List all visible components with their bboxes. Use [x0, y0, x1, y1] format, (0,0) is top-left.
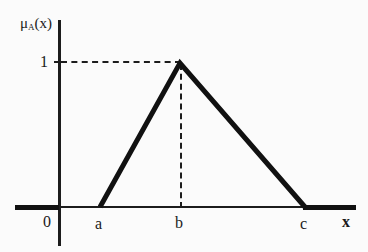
x-axis-label: x	[342, 214, 350, 230]
y-axis-label-arg: (x)	[35, 15, 53, 31]
x-tick-label-c: c	[300, 216, 307, 232]
membership-curve	[0, 0, 368, 252]
origin-label: 0	[43, 214, 51, 230]
triangular-curve-polyline	[100, 63, 305, 207]
x-tick-label-b: b	[175, 215, 183, 231]
triangular-membership-function-chart: μA(x) 1 0 a b c x	[0, 0, 368, 252]
y-axis-label-mu: μ	[20, 15, 28, 31]
x-tick-label-a: a	[95, 216, 102, 232]
y-tick-label-1: 1	[40, 54, 48, 70]
y-axis-label: μA(x)	[20, 16, 52, 32]
